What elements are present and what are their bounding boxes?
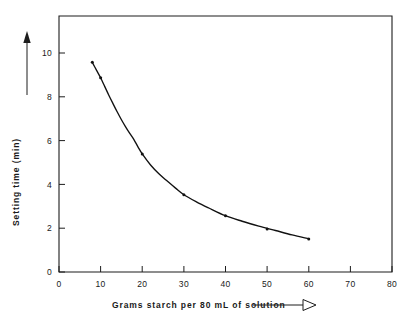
y-tick-label: 4 (47, 180, 52, 190)
x-tick-label: 60 (304, 279, 314, 289)
y-tick-label: 6 (47, 136, 52, 146)
data-point-marker (224, 214, 227, 217)
y-axis-title: Setting time (min) (11, 138, 21, 226)
data-point-marker (307, 237, 310, 240)
y-tick-label: 10 (42, 48, 52, 58)
chart-background (0, 0, 412, 321)
data-point-marker (99, 76, 102, 79)
y-tick-label: 0 (47, 267, 52, 277)
x-tick-label: 0 (56, 279, 61, 289)
data-point-marker (91, 61, 94, 64)
data-point-marker (182, 193, 185, 196)
x-tick-label: 70 (345, 279, 355, 289)
setting-time-vs-starch-chart: 0 2 4 6 8 10 0 10 20 30 40 50 60 70 80 S… (0, 0, 412, 321)
y-tick-label: 8 (47, 92, 52, 102)
data-point-marker (266, 227, 269, 230)
y-tick-label: 2 (47, 223, 52, 233)
x-tick-label: 50 (262, 279, 272, 289)
data-point-marker (141, 152, 144, 155)
x-tick-label: 40 (220, 279, 230, 289)
x-tick-label: 80 (387, 279, 397, 289)
x-tick-label: 30 (179, 279, 189, 289)
x-tick-label: 20 (137, 279, 147, 289)
x-tick-label: 10 (96, 279, 106, 289)
